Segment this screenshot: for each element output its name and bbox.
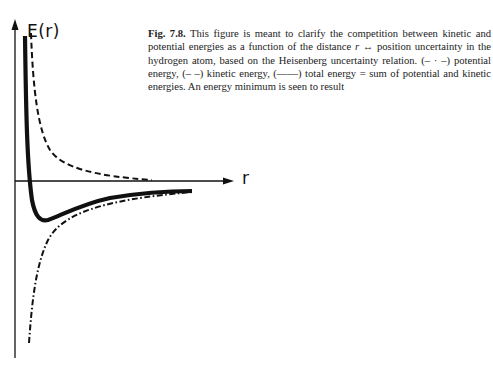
figure-number: Fig. 7.8. (148, 28, 186, 39)
figure-caption: Fig. 7.8. This figure is meant to clarif… (148, 27, 491, 93)
potential-energy-curve (29, 192, 192, 343)
y-axis-label: E(r) (27, 21, 60, 41)
y-axis (12, 19, 19, 358)
x-axis (15, 178, 234, 185)
figure: E(r) r Fig. 7.8. This figure is meant to… (0, 0, 493, 366)
kinetic-energy-curve (31, 33, 152, 180)
x-axis-label: r (242, 168, 249, 188)
